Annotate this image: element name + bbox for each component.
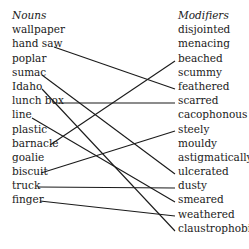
nouns-column: Nouns wallpaper hand saw poplar sumac Id… bbox=[12, 8, 65, 207]
noun-item: plastic bbox=[12, 122, 65, 136]
noun-item: biscuit bbox=[12, 164, 65, 178]
noun-item: Idaho bbox=[12, 79, 65, 93]
modifier-item: claustrophobic bbox=[178, 221, 249, 235]
noun-item: goalie bbox=[12, 150, 65, 164]
modifier-item: menacing bbox=[178, 36, 249, 50]
modifier-item: steely bbox=[178, 122, 249, 136]
noun-item: barnacle bbox=[12, 136, 65, 150]
modifier-item: cacophonous bbox=[178, 107, 249, 121]
modifier-item: ulcerated bbox=[178, 164, 249, 178]
noun-item: sumac bbox=[12, 65, 65, 79]
modifier-item: feathered bbox=[178, 79, 249, 93]
noun-item: poplar bbox=[12, 51, 65, 65]
noun-item: lunch box bbox=[12, 93, 65, 107]
noun-item: wallpaper bbox=[12, 22, 65, 36]
modifier-item: beached bbox=[178, 51, 249, 65]
modifier-item: scummy bbox=[178, 65, 249, 79]
noun-item: finger bbox=[12, 192, 65, 206]
modifier-item: disjointed bbox=[178, 22, 249, 36]
modifier-item: scarred bbox=[178, 93, 249, 107]
modifiers-column: Modifiers disjointed menacing beached sc… bbox=[178, 8, 249, 235]
noun-item: truck bbox=[12, 178, 65, 192]
modifier-item: weathered bbox=[178, 207, 249, 221]
modifier-item: smeared bbox=[178, 192, 249, 206]
nouns-header: Nouns bbox=[12, 8, 65, 22]
line-handsaw-feathered bbox=[54, 47, 175, 89]
noun-item: hand saw bbox=[12, 36, 65, 50]
noun-item: line bbox=[12, 107, 65, 121]
modifier-item: astigmatically bbox=[178, 150, 249, 164]
modifier-item: dusty bbox=[178, 178, 249, 192]
modifier-item: mouldy bbox=[178, 136, 249, 150]
modifiers-header: Modifiers bbox=[178, 8, 249, 22]
